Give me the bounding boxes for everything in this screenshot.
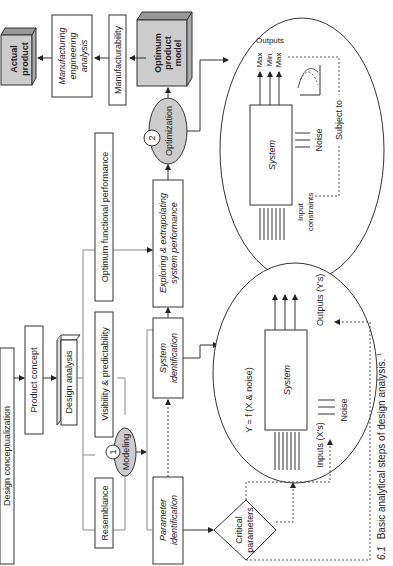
optimum-product-model-box: Optimum product model (137, 12, 192, 86)
parameter-identification-box: Parameter identification (153, 477, 183, 564)
svg-text:System: System (158, 342, 168, 373)
svg-text:analysis: analysis (79, 39, 89, 72)
svg-text:Actual: Actual (9, 45, 19, 73)
svg-text:model: model (173, 40, 183, 67)
svg-text:system performance: system performance (169, 202, 179, 284)
design-analysis-box: Design analysis (57, 335, 80, 425)
svg-text:Manufacturability: Manufacturability (113, 25, 123, 94)
system-model: Y = f (X & noise) System Outputs (Y's) N… (213, 263, 377, 483)
svg-text:2: 2 (147, 135, 157, 140)
svg-text:Max: Max (255, 52, 264, 67)
svg-text:6.1 Basic analytical ste: 6.1 Basic analytical steps of design ana… (376, 352, 387, 560)
exploring-extrapolating-box: Exploring & extrapolating system perform… (153, 180, 183, 307)
optimization-step: Optimization 2 (144, 98, 187, 164)
svg-text:Modeling: Modeling (121, 434, 131, 471)
figure-caption: 6.1 Basic analytical steps of design ana… (376, 352, 387, 560)
svg-text:Critical: Critical (234, 516, 244, 544)
critical-parameters-diamond: Critical parameters (214, 500, 276, 560)
svg-text:Design conceptualization: Design conceptualization (2, 406, 12, 506)
svg-text:Outputs (Y's): Outputs (Y's) (315, 274, 325, 326)
design-analysis-diagram: Design conceptualization Product concept… (0, 0, 393, 566)
svg-text:System: System (282, 364, 292, 395)
optimum-functional-performance-box: Optimum functional performance (95, 133, 113, 301)
svg-text:Optimum: Optimum (153, 33, 163, 73)
svg-text:Inputs (X's): Inputs (X's) (315, 422, 325, 467)
svg-text:Optimum functional performance: Optimum functional performance (100, 152, 110, 283)
svg-text:Exploring & extrapolating: Exploring & extrapolating (158, 193, 168, 293)
svg-text:identification: identification (169, 333, 179, 383)
svg-text:engineering: engineering (68, 32, 78, 79)
optimization-model: System Max Min Max Outputs Noise Inp (220, 18, 384, 282)
manufacturing-engineering-analysis-box: Manufacturing engineering analysis (52, 15, 92, 97)
svg-text:Input: Input (296, 202, 305, 221)
svg-text:constraints: constraints (306, 193, 315, 232)
svg-text:identification: identification (169, 495, 179, 545)
svg-text:product: product (20, 42, 30, 76)
actual-product-box: Actual product (1, 28, 36, 85)
svg-text:Noise: Noise (314, 128, 324, 151)
design-conceptualization-box: Design conceptualization (0, 348, 14, 564)
svg-text:Subject to: Subject to (334, 100, 344, 140)
system-identification-box: System identification (153, 318, 183, 398)
svg-text:Parameter: Parameter (158, 498, 168, 541)
svg-text:parameters: parameters (245, 507, 255, 553)
svg-text:System: System (267, 139, 277, 170)
svg-text:Min: Min (265, 54, 274, 67)
svg-text:Outputs: Outputs (256, 36, 284, 45)
svg-text:Design analysis: Design analysis (64, 350, 74, 414)
svg-text:Y = f (X & noise): Y = f (X & noise) (244, 367, 254, 433)
manufacturability-box: Manufacturability (109, 15, 126, 105)
svg-text:Manufacturing: Manufacturing (57, 27, 67, 84)
svg-text:Optimization: Optimization (164, 106, 174, 156)
svg-text:Max: Max (274, 52, 283, 67)
svg-text:Product concept: Product concept (29, 347, 39, 413)
resemblance-box: Resemblance (95, 478, 113, 548)
product-concept-box: Product concept (25, 326, 43, 434)
svg-text:1: 1 (108, 449, 118, 454)
svg-text:Noise: Noise (339, 398, 349, 421)
svg-text:Resemblance: Resemblance (100, 485, 110, 540)
visibility-predictability-box: Visibility & predictability (95, 312, 113, 437)
svg-text:Visibility & predictability: Visibility & predictability (100, 327, 110, 421)
svg-text:product: product (163, 36, 173, 70)
